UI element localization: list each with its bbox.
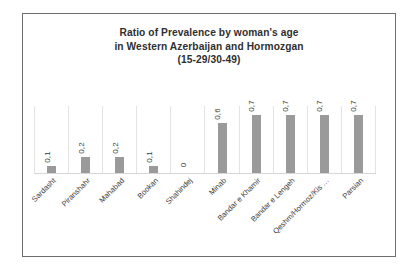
bar-category: 0: [170, 106, 204, 174]
bar-value-label: 0,7: [281, 100, 290, 112]
x-axis-label-slot: Qeshm/Hormoz/Kis …: [308, 174, 342, 254]
bar-category: 0,2: [102, 106, 136, 174]
x-axis-tick-label: Parsian: [341, 176, 366, 201]
chart-title: Ratio of Prevalence by woman's age in We…: [23, 26, 395, 67]
bar-category: 0,7: [307, 106, 341, 174]
bar[interactable]: 0,7: [286, 115, 295, 175]
bar-category: 0,6: [204, 106, 238, 174]
x-axis-tick-label: Sardasht: [30, 176, 58, 204]
plot-area: 0,1 0,2 0,2 0,1: [34, 106, 376, 174]
bar[interactable]: 0,7: [354, 115, 363, 175]
x-axis-label-slot: Mahabad: [102, 174, 136, 254]
bar-category: 0,1: [136, 106, 170, 174]
bar-value-label: 0,7: [349, 100, 358, 112]
chart-title-line-2: in Western Azerbaijan and Hormozgan: [23, 40, 395, 54]
chart-screenshot: Ratio of Prevalence by woman's age in We…: [0, 0, 417, 273]
bar-series: 0,1 0,2 0,2 0,1: [34, 106, 376, 174]
bar[interactable]: 0,6: [218, 123, 227, 174]
chart-title-line-1: Ratio of Prevalence by woman's age: [23, 26, 395, 40]
x-axis-tick-label: Bookan: [135, 176, 160, 201]
x-axis-label-slot: Piranshahr: [68, 174, 102, 254]
bar-value-label: 0,2: [77, 142, 86, 154]
bar[interactable]: 0,7: [252, 115, 261, 175]
bar-category: 0,2: [68, 106, 102, 174]
bar-category: 0,7: [341, 106, 376, 174]
x-axis-tick-label: Minab: [207, 176, 228, 197]
bar-value-label: 0,7: [247, 100, 256, 112]
bar[interactable]: 0,2: [115, 157, 124, 174]
bar-value-label: 0,1: [145, 151, 154, 163]
bar-value-label: 0: [179, 163, 188, 168]
x-axis-label-slot: Bookan: [137, 174, 171, 254]
bar-value-label: 0,7: [315, 100, 324, 112]
bar-category: 0,7: [273, 106, 307, 174]
bar-category: 0,7: [239, 106, 273, 174]
bar[interactable]: 0,2: [81, 157, 90, 174]
bar-value-label: 0,1: [43, 151, 52, 163]
bar-value-label: 0,2: [111, 142, 120, 154]
bar-category: 0,1: [34, 106, 68, 174]
chart-title-line-3: (15-29/30-49): [23, 53, 395, 67]
bar-value-label: 0,6: [213, 108, 222, 120]
x-axis-labels: Sardasht Piranshahr Mahabad Bookan Shahi…: [34, 174, 376, 254]
bar[interactable]: 0,7: [320, 115, 329, 175]
x-axis-label-slot: Sardasht: [34, 174, 68, 254]
x-axis-label-slot: Shahindej: [171, 174, 205, 254]
x-axis-label-slot: Parsian: [342, 174, 376, 254]
chart-frame: Ratio of Prevalence by woman's age in We…: [22, 13, 396, 257]
